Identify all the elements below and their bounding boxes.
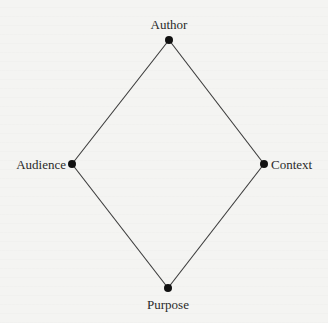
edge-purpose-audience: [72, 164, 168, 288]
node-label-author: Author: [151, 18, 188, 31]
edge-author-context: [169, 40, 264, 164]
node-audience-dot: [68, 160, 76, 168]
node-label-context: Context: [271, 158, 312, 171]
edge-context-purpose: [168, 164, 264, 288]
node-author-dot: [165, 36, 173, 44]
diamond-edges: [72, 40, 264, 288]
diamond-nodes: [68, 36, 268, 292]
edge-audience-author: [72, 40, 169, 164]
node-label-purpose: Purpose: [147, 298, 189, 311]
node-context-dot: [260, 160, 268, 168]
node-label-audience: Audience: [16, 158, 66, 171]
node-purpose-dot: [164, 284, 172, 292]
